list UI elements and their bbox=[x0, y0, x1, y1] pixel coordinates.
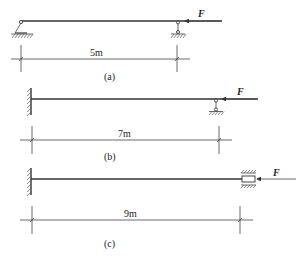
figure-a: F 5m (a) bbox=[11, 8, 222, 83]
fixed-wall-icon bbox=[27, 88, 31, 116]
fixed-wall-icon bbox=[27, 168, 31, 196]
span-label: 7m bbox=[118, 128, 131, 139]
roller-support-icon bbox=[171, 21, 186, 38]
force-label: F bbox=[197, 8, 205, 19]
figure-b: F 7m (b) bbox=[20, 86, 258, 163]
figure-c: F 9m (c) bbox=[20, 167, 296, 250]
force-label: F bbox=[272, 167, 280, 178]
beam-diagrams: F 5m (a) bbox=[0, 0, 306, 257]
span-label: 5m bbox=[90, 47, 103, 58]
figure-caption: (a) bbox=[104, 71, 115, 83]
slider-support-icon bbox=[241, 170, 256, 188]
roller-support-icon bbox=[209, 99, 224, 115]
pin-support-icon bbox=[11, 20, 33, 38]
force-label: F bbox=[236, 86, 244, 97]
figure-caption: (c) bbox=[104, 238, 115, 250]
span-label: 9m bbox=[124, 208, 137, 219]
figure-caption: (b) bbox=[104, 151, 116, 163]
